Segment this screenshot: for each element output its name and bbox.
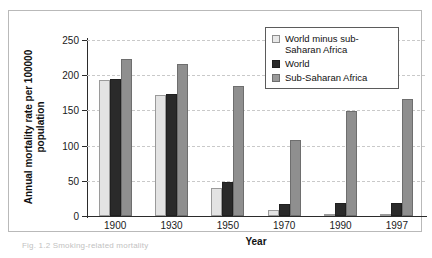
chart-frame: Annual mortality rate per 100000 populat…	[8, 10, 422, 232]
y-axis-tick-label: 100	[62, 140, 79, 151]
bar	[166, 94, 177, 216]
legend-item-label: Sub-Saharan Africa	[285, 72, 367, 83]
y-axis-title: Annual mortality rate per 100000 populat…	[23, 43, 47, 211]
legend-swatch-world-minus-ssa	[272, 35, 280, 43]
bar	[324, 214, 335, 216]
legend-item-label: World minus sub-Saharan Africa	[285, 33, 391, 55]
legend-swatch-world	[272, 60, 280, 68]
bar	[402, 99, 413, 216]
chart-legend: World minus sub-Saharan AfricaWorldSub-S…	[265, 27, 399, 89]
bar	[380, 214, 391, 216]
bar	[211, 188, 222, 216]
x-axis-tick-label: 1970	[254, 220, 314, 231]
y-axis-tick-label: 200	[62, 70, 79, 81]
legend-item: Sub-Saharan Africa	[272, 72, 391, 83]
legend-swatch-ssa	[272, 74, 280, 82]
bar-group	[200, 40, 256, 216]
bar	[290, 140, 301, 216]
x-axis-line	[87, 216, 427, 217]
x-axis-tick-label: 1900	[85, 220, 145, 231]
figure-container: Annual mortality rate per 100000 populat…	[0, 0, 432, 258]
x-axis-tick-label: 1997	[367, 220, 427, 231]
bar	[110, 79, 121, 216]
x-axis-tick-label: 1950	[198, 220, 258, 231]
figure-caption: Fig. 1.2 Smoking-related mortality	[22, 241, 148, 250]
bar-group-bars	[87, 40, 143, 216]
x-axis-tick-label: 1990	[311, 220, 371, 231]
y-axis-tick-label: 0	[73, 211, 79, 222]
y-axis-tick-label: 50	[68, 175, 79, 186]
bar	[391, 203, 402, 216]
bar	[121, 59, 132, 216]
legend-item-label: World	[285, 58, 310, 69]
y-axis-tick	[82, 216, 87, 217]
bar-group-bars	[143, 40, 199, 216]
bar-group	[143, 40, 199, 216]
bar	[279, 204, 290, 216]
bar	[177, 64, 188, 216]
bar	[346, 111, 357, 216]
bar	[335, 203, 346, 216]
legend-item: World	[272, 58, 391, 69]
y-axis-tick-label: 250	[62, 35, 79, 46]
x-axis-tick-label: 1930	[142, 220, 202, 231]
bar-group	[87, 40, 143, 216]
bar	[233, 86, 244, 216]
bar-group-bars	[200, 40, 256, 216]
bar	[222, 182, 233, 216]
bar	[268, 210, 279, 216]
legend-item: World minus sub-Saharan Africa	[272, 33, 391, 55]
bar	[99, 80, 110, 216]
bar	[155, 95, 166, 216]
y-axis-tick-label: 150	[62, 105, 79, 116]
